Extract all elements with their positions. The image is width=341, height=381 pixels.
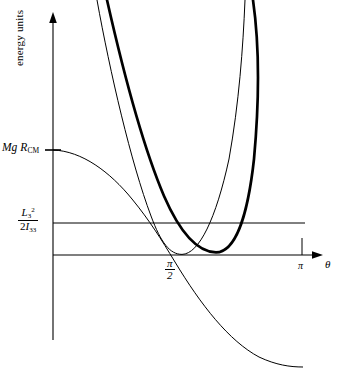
x-axis-label: θ	[325, 259, 330, 270]
fraction-l3-over-2i33: L32 2I33	[18, 207, 38, 234]
fraction-numerator: L32	[18, 207, 38, 221]
level-label-l3-squared: L32 2I33	[18, 207, 38, 234]
mg-symbol: Mg	[2, 141, 17, 153]
cm-subscript: CM	[27, 146, 39, 155]
tick-label-pi: π	[298, 261, 303, 271]
curve-centrifugal-barrier	[97, 0, 245, 254]
y-axis	[49, 12, 57, 340]
y-axis-label: energy units	[14, 48, 25, 62]
fraction-pi-over-two: π 2	[165, 258, 175, 281]
energy-diagram-figure: energy units MgRCM L32 2I33 π 2 π θ	[0, 0, 341, 381]
plot-canvas	[0, 0, 341, 381]
curve-effective-potential	[107, 0, 258, 252]
two-denominator: 2	[165, 270, 175, 281]
fraction-denominator: 2I33	[18, 221, 38, 234]
level-label-mg-rcm: MgRCM	[2, 142, 39, 155]
curve-gravity-cosine	[53, 150, 303, 367]
tick-label-pi-over-two: π 2	[165, 258, 175, 281]
